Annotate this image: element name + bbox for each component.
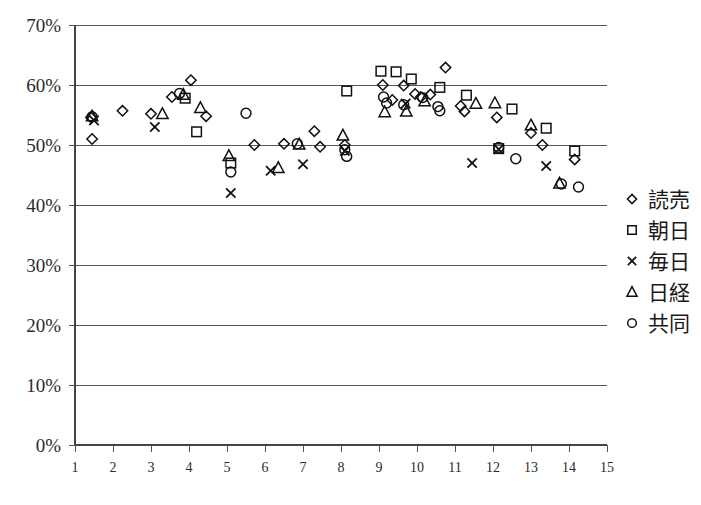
data-point-朝日-3 — [342, 86, 352, 96]
data-point-日経-12 — [489, 97, 500, 108]
data-point-毎日-1 — [150, 122, 159, 131]
data-point-読売-1 — [87, 134, 97, 144]
x-tick-label-2: 2 — [110, 460, 117, 475]
data-point-朝日-8 — [462, 90, 472, 100]
data-point-毎日-2 — [226, 188, 235, 197]
x-tick-label-15: 15 — [600, 460, 614, 475]
data-point-読売-21 — [492, 112, 502, 122]
legend-marker-毎日 — [628, 257, 636, 265]
legend-label-朝日: 朝日 — [648, 219, 690, 243]
legend-item-読売[interactable]: 読売 — [627, 188, 690, 212]
legend-marker-朝日 — [628, 226, 636, 234]
data-point-朝日-10 — [507, 104, 517, 114]
chart-legend: 読売朝日毎日日経共同 — [627, 188, 690, 336]
y-axis-tick-labels: 0%10%20%30%40%50%60%70% — [26, 15, 75, 456]
x-axis-tick-marks — [75, 445, 607, 452]
chart-canvas: 0%10%20%30%40%50%60%70% 1234567891011121… — [0, 0, 701, 505]
data-point-共同-14 — [511, 154, 521, 164]
data-point-朝日-4 — [376, 66, 386, 76]
legend-marker-共同 — [628, 319, 637, 328]
x-tick-label-3: 3 — [148, 460, 155, 475]
data-point-共同-2 — [226, 167, 236, 177]
data-point-読売-9 — [309, 126, 319, 136]
y-tick-label-20: 20% — [26, 315, 61, 336]
data-point-毎日-7 — [467, 158, 476, 167]
y-tick-label-10: 10% — [26, 375, 61, 396]
data-point-読売-5 — [186, 75, 196, 85]
data-point-毎日-4 — [298, 160, 307, 169]
axes — [75, 25, 607, 445]
x-tick-label-13: 13 — [524, 460, 538, 475]
legend-item-毎日[interactable]: 毎日 — [628, 250, 690, 274]
x-tick-label-4: 4 — [186, 460, 193, 475]
gridlines — [75, 25, 607, 445]
x-tick-label-6: 6 — [262, 460, 269, 475]
data-point-毎日-9 — [542, 161, 551, 170]
data-point-朝日-6 — [407, 74, 417, 84]
data-point-共同-3 — [241, 108, 251, 118]
x-tick-label-10: 10 — [410, 460, 424, 475]
data-point-読売-10 — [315, 142, 325, 152]
legend-label-毎日: 毎日 — [648, 250, 690, 274]
x-tick-label-9: 9 — [376, 460, 383, 475]
data-point-朝日-11 — [541, 123, 551, 133]
x-tick-label-12: 12 — [486, 460, 500, 475]
x-tick-label-1: 1 — [72, 460, 79, 475]
y-tick-label-0: 0% — [36, 435, 62, 456]
x-axis-tick-labels: 123456789101112131415 — [72, 460, 615, 475]
legend-marker-読売 — [627, 194, 636, 203]
x-tick-label-8: 8 — [338, 460, 345, 475]
legend-item-共同[interactable]: 共同 — [628, 312, 690, 336]
legend-label-共同: 共同 — [648, 312, 690, 336]
legend-marker-日経 — [627, 287, 637, 296]
legend-label-日経: 日経 — [648, 281, 690, 305]
y-tick-label-40: 40% — [26, 195, 61, 216]
y-tick-label-30: 30% — [26, 255, 61, 276]
y-tick-label-50: 50% — [26, 135, 61, 156]
data-point-共同-7 — [379, 92, 389, 102]
data-point-共同-4 — [292, 139, 302, 149]
series-日経 — [86, 89, 565, 188]
data-point-読売-8 — [279, 139, 289, 149]
data-point-読売-14 — [399, 80, 409, 90]
x-tick-label-5: 5 — [224, 460, 231, 475]
data-point-朝日-5 — [391, 67, 401, 77]
x-tick-label-14: 14 — [562, 460, 576, 475]
legend-label-読売: 読売 — [648, 188, 690, 212]
y-tick-label-60: 60% — [26, 75, 61, 96]
data-point-読売-18 — [440, 62, 450, 72]
data-point-朝日-7 — [435, 83, 445, 93]
scatter-chart: 0%10%20%30%40%50%60%70% 1234567891011121… — [0, 0, 701, 505]
data-point-日経-7 — [337, 129, 348, 140]
legend-item-朝日[interactable]: 朝日 — [628, 219, 690, 243]
legend-item-日経[interactable]: 日経 — [627, 281, 690, 305]
x-tick-label-7: 7 — [300, 460, 307, 475]
data-point-日経-10 — [419, 95, 430, 106]
data-point-共同-16 — [574, 182, 584, 192]
data-point-日経-3 — [195, 102, 206, 113]
data-point-朝日-1 — [192, 127, 202, 137]
data-point-読売-2 — [117, 106, 127, 116]
data-point-読売-3 — [146, 109, 156, 119]
data-points — [86, 62, 584, 197]
y-tick-label-70: 70% — [26, 15, 61, 36]
data-point-日経-1 — [157, 108, 168, 119]
x-tick-label-11: 11 — [448, 460, 461, 475]
